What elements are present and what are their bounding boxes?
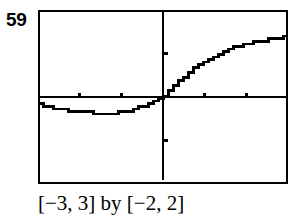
figure-caption: [−3, 3] by [−2, 2] <box>38 190 184 216</box>
figure-number: 59 <box>6 9 27 30</box>
plot-frame <box>38 10 288 184</box>
graph-plot-icon <box>38 10 288 184</box>
figure-container: 59 [−3, 3] by [−2, 2] <box>0 0 298 222</box>
